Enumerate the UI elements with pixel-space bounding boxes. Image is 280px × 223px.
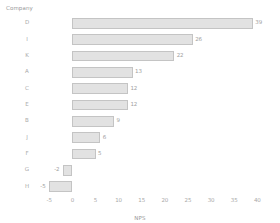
y-axis-title: Company: [6, 5, 33, 11]
x-tick-30: 30: [208, 198, 215, 204]
bar-e[interactable]: [72, 100, 128, 111]
bar-row: G-2: [14, 162, 266, 178]
value-label-a: 13: [135, 69, 142, 75]
value-label-e: 12: [130, 102, 137, 108]
x-tick-15: 15: [138, 198, 145, 204]
bar-a[interactable]: [72, 67, 132, 78]
value-label-i: 26: [195, 37, 202, 43]
bar-f[interactable]: [72, 149, 95, 160]
x-tick-35: 35: [231, 198, 238, 204]
category-label-a: A: [14, 69, 40, 75]
bar-row: I26: [14, 31, 266, 47]
plot-area: D39I26K22A13C12E12B9J6F5G-2H-5: [14, 15, 266, 195]
category-label-h: H: [14, 184, 40, 190]
category-label-c: C: [14, 86, 40, 92]
bar-i[interactable]: [72, 34, 192, 45]
value-label-h: -5: [40, 184, 45, 190]
value-label-f: 5: [98, 151, 102, 157]
bar-c[interactable]: [72, 83, 128, 94]
x-tick-40: 40: [254, 198, 261, 204]
bar-h[interactable]: [49, 181, 72, 192]
x-tick-5: 5: [94, 198, 98, 204]
category-label-k: K: [14, 53, 40, 59]
x-axis-title: NPS: [0, 215, 280, 221]
bar-row: J6: [14, 130, 266, 146]
x-tick-25: 25: [185, 198, 192, 204]
x-tick-10: 10: [115, 198, 122, 204]
category-label-j: J: [14, 135, 40, 141]
x-tick-0: 0: [71, 198, 75, 204]
category-label-f: F: [14, 151, 40, 157]
bar-row: E12: [14, 97, 266, 113]
x-tick-20: 20: [161, 198, 168, 204]
value-label-g: -2: [54, 167, 59, 173]
value-label-b: 9: [117, 118, 121, 124]
category-label-b: B: [14, 118, 40, 124]
bar-row: A13: [14, 64, 266, 80]
value-label-k: 22: [177, 53, 184, 59]
value-label-d: 39: [255, 20, 262, 26]
bar-row: D39: [14, 15, 266, 31]
value-label-j: 6: [103, 135, 107, 141]
bar-row: K22: [14, 48, 266, 64]
category-label-e: E: [14, 102, 40, 108]
value-label-c: 12: [130, 86, 137, 92]
bar-d[interactable]: [72, 18, 252, 29]
nps-bar-chart: Company D39I26K22A13C12E12B9J6F5G-2H-5 -…: [0, 0, 280, 223]
bar-g[interactable]: [63, 165, 72, 176]
category-label-d: D: [14, 20, 40, 26]
x-tick-neg5: -5: [47, 198, 52, 204]
category-label-i: I: [14, 37, 40, 43]
bar-row: H-5: [14, 179, 266, 195]
bar-k[interactable]: [72, 51, 174, 62]
bar-row: F5: [14, 146, 266, 162]
bar-j[interactable]: [72, 132, 100, 143]
bar-b[interactable]: [72, 116, 114, 127]
x-axis-tick-labels: -50510152025303540: [14, 198, 266, 208]
bar-row: B9: [14, 113, 266, 129]
bar-row: C12: [14, 80, 266, 96]
category-label-g: G: [14, 167, 40, 173]
